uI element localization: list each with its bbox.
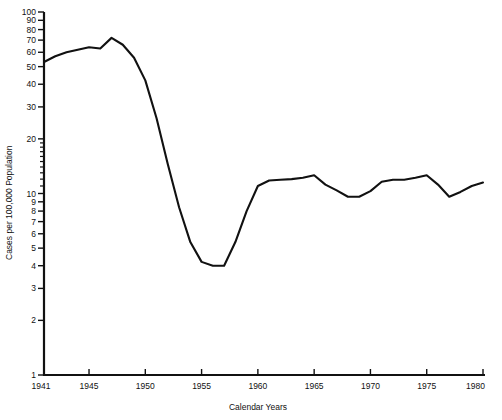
y-tick-label: 8 bbox=[31, 206, 36, 216]
y-tick-label: 40 bbox=[27, 79, 37, 89]
y-tick-label: 3 bbox=[31, 283, 36, 293]
x-tick-label: 1980 bbox=[466, 381, 485, 391]
x-axis-ticks: 194119451950195519601965197019751980 bbox=[32, 369, 486, 391]
y-tick-label: 6 bbox=[31, 229, 36, 239]
y-axis-title: Cases per 100,000 Population bbox=[4, 145, 14, 260]
y-tick-label: 20 bbox=[27, 134, 37, 144]
series-line-cases bbox=[44, 38, 483, 266]
y-tick-label: 7 bbox=[31, 217, 36, 227]
x-axis-title: Calendar Years bbox=[229, 402, 287, 412]
y-tick-label: 50 bbox=[27, 62, 37, 72]
x-tick-label: 1975 bbox=[417, 381, 436, 391]
y-axis-ticks: 100908070605040302010987654321 bbox=[22, 7, 44, 380]
axis-frame bbox=[44, 12, 485, 375]
chart-canvas: 100908070605040302010987654321 194119451… bbox=[0, 0, 502, 420]
y-tick-label: 70 bbox=[27, 35, 37, 45]
y-tick-label: 4 bbox=[31, 261, 36, 271]
x-tick-label: 1965 bbox=[305, 381, 324, 391]
y-tick-label: 80 bbox=[27, 25, 37, 35]
x-tick-label: 1970 bbox=[361, 381, 380, 391]
line-chart: 100908070605040302010987654321 194119451… bbox=[0, 0, 502, 420]
x-tick-label: 1955 bbox=[192, 381, 211, 391]
x-tick-label: 1941 bbox=[32, 381, 51, 391]
x-tick-label: 1960 bbox=[248, 381, 267, 391]
x-tick-label: 1945 bbox=[80, 381, 99, 391]
y-tick-label: 5 bbox=[31, 243, 36, 253]
y-tick-label: 60 bbox=[27, 47, 37, 57]
y-tick-label: 2 bbox=[31, 315, 36, 325]
x-tick-label: 1950 bbox=[136, 381, 155, 391]
y-tick-label: 1 bbox=[31, 370, 36, 380]
y-tick-label: 30 bbox=[27, 102, 37, 112]
